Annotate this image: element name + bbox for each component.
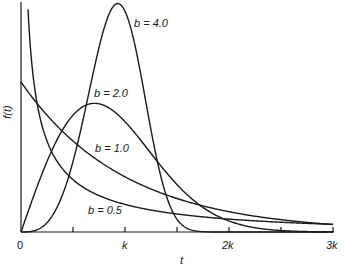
label-b-2: b = 2.0 — [94, 87, 129, 99]
label-b-05: b = 0.5 — [88, 204, 123, 216]
tick-label-0: 0 — [17, 239, 23, 251]
weibull-chart: 0 k 2k 3k t f(t) b = 4.0 b = 2.0 b = 1.0… — [0, 0, 344, 269]
label-b-4: b = 4.0 — [134, 17, 169, 29]
curve-b-1 — [21, 82, 333, 225]
tick-label-2k: 2k — [221, 239, 234, 251]
curve-b-0-5 — [28, 9, 333, 224]
y-axis-label: f(t) — [1, 105, 13, 119]
x-axis-label: t — [180, 254, 184, 266]
curve-b-2 — [21, 103, 333, 232]
tick-label-k: k — [122, 239, 128, 251]
curves — [21, 4, 333, 232]
tick-label-3k: 3k — [326, 239, 338, 251]
label-b-1: b = 1.0 — [95, 142, 130, 154]
curve-b-4 — [21, 4, 333, 232]
